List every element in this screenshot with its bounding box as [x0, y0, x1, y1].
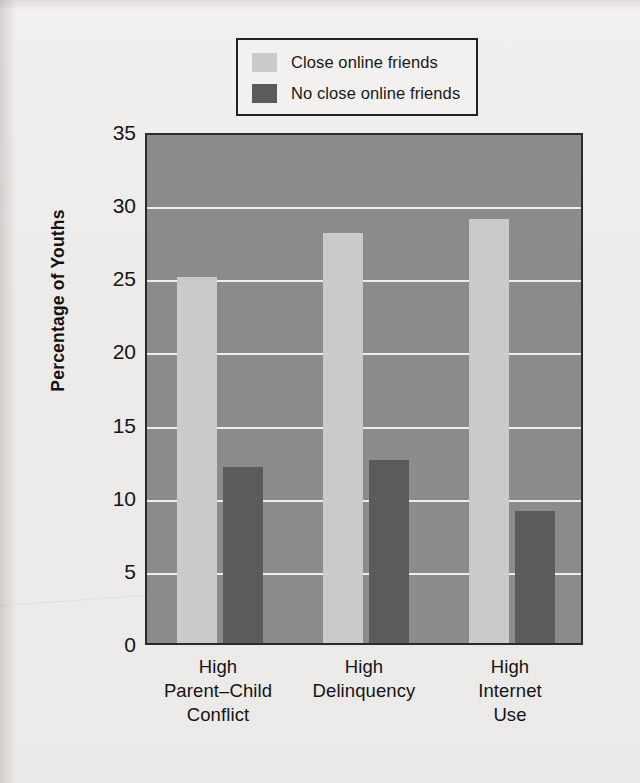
scan-artifact-line	[0, 595, 150, 606]
legend-swatch-no-close-online-friends	[252, 84, 277, 103]
legend-label-no-close-online-friends: No close online friends	[291, 85, 460, 102]
legend-item: No close online friends	[238, 78, 476, 109]
x-axis-label-1: HighDelinquency	[291, 655, 437, 727]
chart-legend: Close online friends No close online fri…	[236, 38, 478, 116]
x-axis-label-2: HighInternetUse	[437, 655, 583, 727]
x-axis-label-line: Parent–Child	[145, 679, 291, 703]
bar-no-close-online-friends	[369, 460, 409, 643]
bar-close-online-friends	[177, 277, 217, 643]
x-axis-label-line: High	[291, 655, 437, 679]
plot-frame	[145, 133, 583, 645]
page-edge-shadow-left	[0, 0, 16, 783]
x-axis-label-line: Use	[437, 703, 583, 727]
y-axis-title: Percentage of Youths	[48, 201, 69, 401]
x-axis-label-line: Delinquency	[291, 679, 437, 703]
bar-close-online-friends	[469, 219, 509, 643]
legend-swatch-close-online-friends	[252, 53, 277, 72]
bar-no-close-online-friends	[515, 511, 555, 643]
x-axis-label-0: HighParent–ChildConflict	[145, 655, 291, 727]
x-axis-category-labels: HighParent–ChildConflictHighDelinquencyH…	[145, 655, 583, 727]
legend-label-close-online-friends: Close online friends	[291, 54, 438, 71]
x-axis-label-line: High	[145, 655, 291, 679]
x-axis-label-line: High	[437, 655, 583, 679]
plot-area	[147, 135, 581, 643]
page-edge-shadow-top	[0, 0, 640, 10]
x-axis-label-line: Conflict	[145, 703, 291, 727]
legend-item: Close online friends	[238, 47, 476, 78]
bar-no-close-online-friends	[223, 467, 263, 643]
gridline	[147, 207, 581, 209]
x-axis-label-line: Internet	[437, 679, 583, 703]
bar-close-online-friends	[323, 233, 363, 643]
